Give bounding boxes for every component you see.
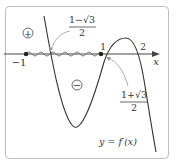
point-minus-one — [24, 52, 28, 56]
graph-canvas: + − −1 1 2 x 1−√3 2 1+√3 2 y = f′(x) — [0, 0, 176, 162]
tick-label-minus-one: −1 — [12, 57, 27, 68]
svg-text:2: 2 — [79, 27, 85, 38]
svg-text:−: − — [73, 80, 81, 91]
tick-label-two: 2 — [140, 42, 146, 52]
curve-label: y = f′(x) — [98, 136, 137, 147]
arrow-head-icon — [49, 47, 53, 52]
negative-region-marker: − — [72, 80, 82, 91]
svg-text:+: + — [24, 28, 32, 39]
svg-text:2: 2 — [131, 102, 137, 113]
curve-f-prime — [44, 16, 156, 152]
annotation-root-left: 1−√3 2 — [49, 14, 96, 52]
tick-label-one: 1 — [100, 42, 106, 52]
positive-region-marker: + — [23, 28, 33, 39]
svg-text:1+√3: 1+√3 — [121, 89, 147, 100]
axis-label-x: x — [153, 56, 159, 67]
svg-text:1−√3: 1−√3 — [69, 14, 95, 25]
point-one — [99, 52, 103, 56]
